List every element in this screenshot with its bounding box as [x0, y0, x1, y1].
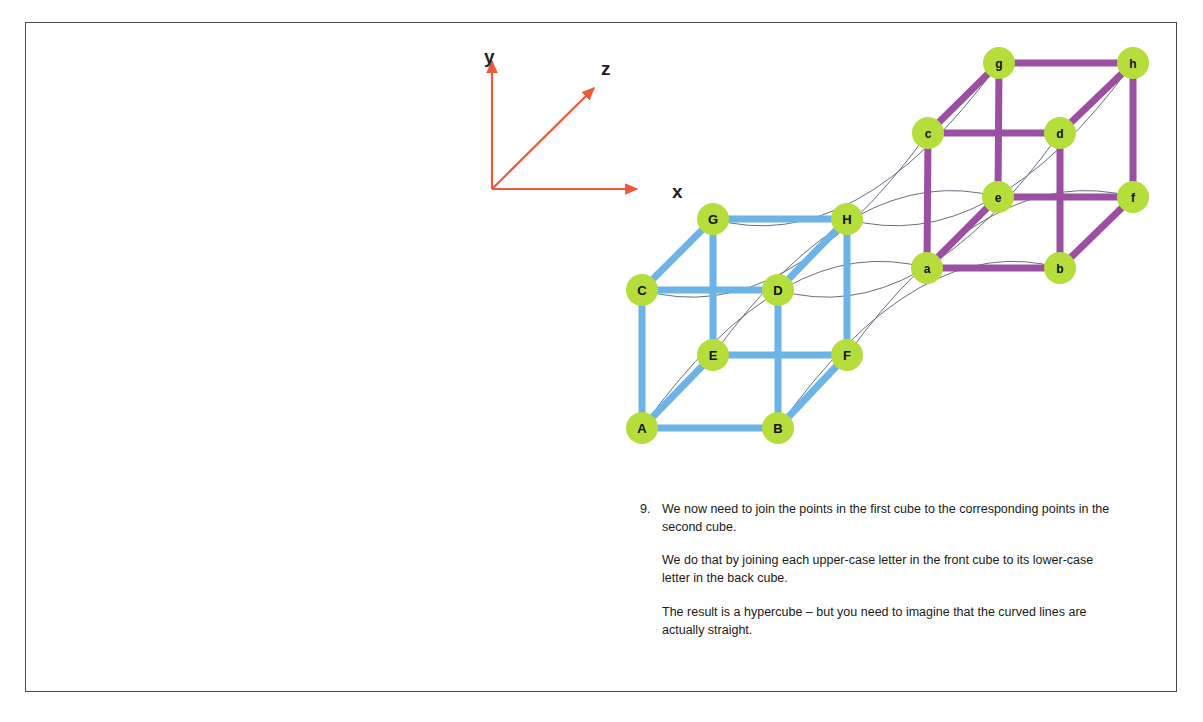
- caption-number: 9.: [640, 500, 650, 518]
- caption-block: 9. We now need to join the points in the…: [640, 500, 1110, 639]
- caption-text-1: We now need to join the points in the fi…: [662, 502, 1109, 534]
- axis-label-x: x: [672, 182, 683, 201]
- caption-paragraph-1: 9. We now need to join the points in the…: [640, 500, 1110, 536]
- caption-paragraph-2: We do that by joining each upper-case le…: [640, 551, 1110, 587]
- page-canvas: ABCDEFGH abcdefgh y z x 9. We now need t…: [0, 0, 1203, 722]
- caption-paragraph-3: The result is a hypercube – but you need…: [640, 603, 1110, 639]
- axis-label-z: z: [601, 59, 611, 78]
- axis-label-y: y: [484, 47, 495, 66]
- caption-text-2: We do that by joining each upper-case le…: [662, 553, 1093, 585]
- caption-text-3: The result is a hypercube – but you need…: [662, 605, 1087, 637]
